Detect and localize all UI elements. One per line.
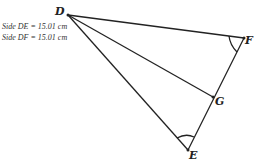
segment-dg (68, 15, 213, 97)
label-e: E (188, 149, 198, 162)
segment-de (68, 15, 188, 150)
segment-fe (188, 38, 244, 150)
point-d (67, 14, 70, 17)
label-g: G (215, 95, 224, 108)
angle-mark-e (177, 135, 194, 138)
segment-df (68, 15, 244, 38)
label-f: F (244, 34, 254, 47)
triangle-diagram: D F G E (0, 0, 255, 162)
angle-mark-f (229, 36, 237, 52)
label-d: D (54, 5, 65, 18)
